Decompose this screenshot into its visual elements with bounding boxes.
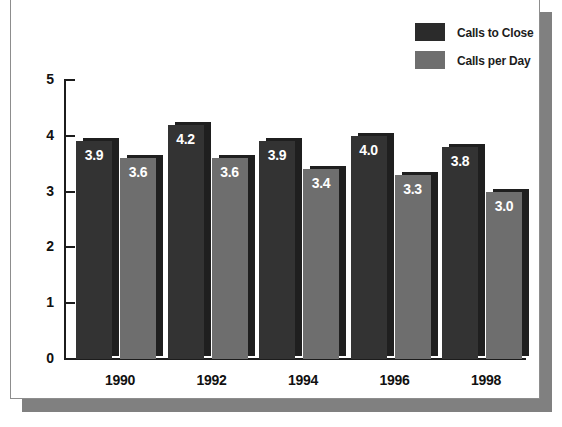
bar[interactable]: 3.0 [486, 192, 522, 359]
bar-value-label: 3.8 [442, 154, 478, 168]
y-tick-1: 1 [64, 302, 75, 304]
bar-value-label: 4.2 [168, 132, 204, 146]
bar-value-label: 3.0 [486, 199, 522, 213]
bar-value-label: 3.9 [76, 148, 112, 162]
bar-face: 3.6 [212, 158, 248, 359]
bar[interactable]: 4.0 [351, 136, 387, 359]
bar-value-label: 3.6 [212, 165, 248, 179]
bar-face: 3.9 [259, 141, 295, 359]
bar[interactable]: 4.2 [168, 125, 204, 359]
bar-value-label: 3.4 [303, 176, 339, 190]
bar-value-label: 3.3 [395, 182, 431, 196]
bar-face: 3.0 [486, 192, 522, 359]
bar-face: 3.4 [303, 169, 339, 359]
chart-panel: Calls to Close Calls per Day 012345 3.93… [10, 0, 540, 399]
y-tick-label-3: 3 [46, 184, 54, 198]
bar-group: 3.93.4 [259, 80, 347, 359]
legend-item-calls-to-close[interactable]: Calls to Close [415, 20, 540, 44]
bar-value-label: 3.6 [120, 165, 156, 179]
bar-face: 3.9 [76, 141, 112, 359]
y-tick-2: 2 [64, 246, 75, 248]
legend-label-calls-per-day: Calls per Day [457, 53, 530, 68]
legend-swatch-calls-per-day [415, 51, 445, 69]
bar-value-label: 4.0 [351, 143, 387, 157]
bar[interactable]: 3.3 [395, 175, 431, 359]
y-tick-5: 5 [64, 79, 75, 81]
bar-face: 4.0 [351, 136, 387, 359]
bar-group: 4.23.6 [168, 80, 256, 359]
bar-value-label: 3.9 [259, 148, 295, 162]
bar[interactable]: 3.6 [212, 158, 248, 359]
y-tick-label-2: 2 [46, 239, 54, 253]
bar-group: 3.93.6 [76, 80, 164, 359]
bar[interactable]: 3.4 [303, 169, 339, 359]
plot-area: 012345 3.93.64.23.63.93.44.03.33.83.0 [64, 79, 526, 359]
y-tick-4: 4 [64, 135, 75, 137]
legend-item-calls-per-day[interactable]: Calls per Day [415, 48, 540, 72]
bar[interactable]: 3.8 [442, 147, 478, 359]
y-tick-label-1: 1 [46, 295, 54, 309]
y-tick-label-4: 4 [46, 128, 54, 142]
y-tick-0: 0 [64, 358, 75, 360]
y-tick-3: 3 [64, 191, 75, 193]
legend-label-calls-to-close: Calls to Close [457, 25, 534, 40]
bar-face: 4.2 [168, 125, 204, 359]
legend-swatch-calls-to-close [415, 23, 445, 41]
bar-face: 3.8 [442, 147, 478, 359]
bar-face: 3.3 [395, 175, 431, 359]
bar-group: 4.03.3 [351, 80, 439, 359]
bar[interactable]: 3.9 [76, 141, 112, 359]
x-axis-label-1998: 1998 [432, 372, 540, 388]
y-tick-label-5: 5 [46, 72, 54, 86]
chart-screenshot: Calls to Close Calls per Day 012345 3.93… [0, 0, 562, 427]
bar-group: 3.83.0 [442, 80, 530, 359]
bar[interactable]: 3.6 [120, 158, 156, 359]
y-tick-label-0: 0 [46, 351, 54, 365]
y-axis-line [64, 79, 66, 360]
chart-legend: Calls to Close Calls per Day [415, 20, 540, 76]
bar-face: 3.6 [120, 158, 156, 359]
bar[interactable]: 3.9 [259, 141, 295, 359]
